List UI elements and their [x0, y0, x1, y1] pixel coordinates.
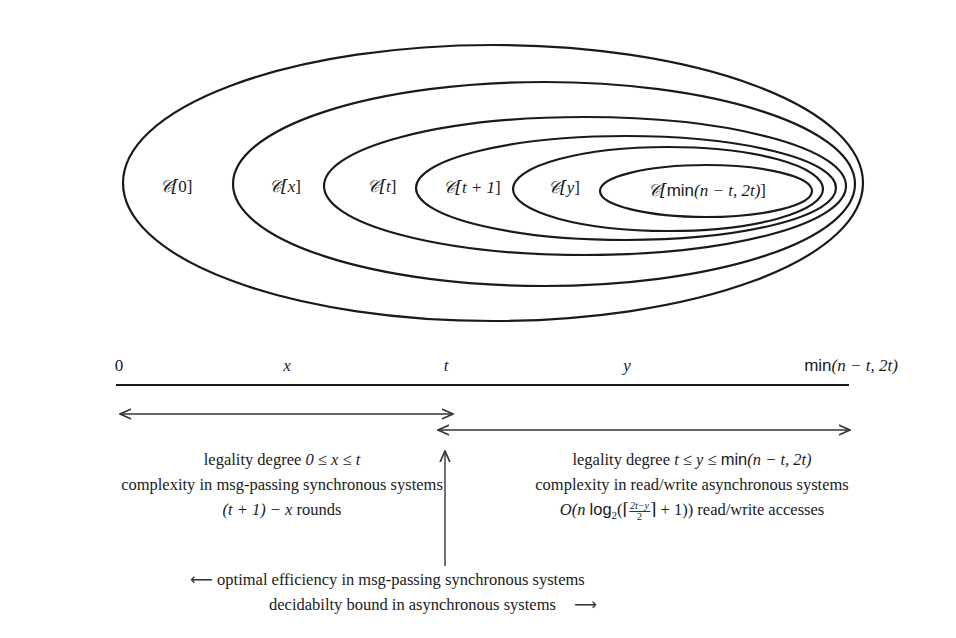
left-rounds-line: (t + 1) − x rounds: [121, 497, 443, 522]
set-label-cx: 𝒞[x]: [269, 176, 301, 197]
min-args: (n − t, 2t): [832, 356, 898, 375]
formula-part: ⌉ + 1)): [650, 500, 693, 519]
set-label-ct: 𝒞[t]: [367, 176, 396, 197]
set-label-cy: 𝒞[y]: [548, 177, 580, 198]
accesses-text: read/write accesses: [693, 500, 824, 519]
set-symbol: 𝒞[: [548, 177, 567, 197]
set-arg: 0: [178, 177, 187, 196]
footer-line-1: ⟵ optimal efficiency in msg-passing sync…: [190, 570, 585, 590]
axis-label-x: x: [283, 356, 291, 376]
optimal-efficiency-text: optimal efficiency in msg-passing synchr…: [217, 570, 585, 589]
set-label-cmin: 𝒞[min(n − t, 2t)]: [648, 180, 766, 201]
set-bracket: ]: [495, 178, 501, 197]
log-fn: log: [590, 500, 612, 518]
set-label-ct1: 𝒞[t + 1]: [443, 177, 501, 198]
set-bracket: ]: [574, 178, 580, 197]
formula-part: (n: [572, 500, 590, 519]
set-bracket: ]: [295, 177, 301, 196]
axis-label-0: 0: [115, 356, 124, 376]
axis-label-min: min(n − t, 2t): [804, 356, 898, 376]
legality-text: legality degree: [572, 450, 674, 469]
legality-range-b: (n − t, 2t): [747, 450, 811, 469]
axis-label-y: y: [623, 356, 631, 376]
set-symbol: 𝒞[: [367, 176, 386, 196]
rounds-formula: (t + 1) − x: [223, 500, 293, 519]
set-label-c0: 𝒞[0]: [160, 176, 193, 197]
legality-text: legality degree: [204, 450, 306, 469]
set-symbol: 𝒞[: [443, 177, 462, 197]
right-arrow-icon: ⟶: [574, 595, 597, 614]
decidability-bound-text: decidabilty bound in asynchronous system…: [269, 595, 556, 614]
set-arg: (n − t, 2t): [694, 181, 760, 200]
legality-range: 0 ≤ x ≤ t: [305, 450, 360, 469]
footer-line-2: decidabilty bound in asynchronous system…: [269, 595, 597, 615]
set-symbol: 𝒞[: [160, 176, 179, 196]
set-fn: min: [667, 181, 694, 200]
set-arg: t + 1: [462, 178, 495, 197]
axis-label-t: t: [444, 356, 449, 376]
rounds-text: rounds: [292, 500, 341, 519]
set-symbol: 𝒞[: [269, 176, 288, 196]
right-complexity-line: complexity in read/write asynchronous sy…: [535, 472, 848, 497]
min-fn: min: [804, 356, 831, 375]
set-symbol: 𝒞[: [648, 180, 667, 200]
legality-range-a: t ≤ y ≤: [674, 450, 721, 469]
left-region-description: legality degree 0 ≤ x ≤ t complexity in …: [121, 447, 443, 522]
left-complexity-line: complexity in msg-passing synchronous sy…: [121, 472, 443, 497]
right-legality-line: legality degree t ≤ y ≤ min(n − t, 2t): [535, 447, 848, 472]
fraction: 2t−y2: [629, 501, 650, 522]
set-bracket: ]: [760, 181, 766, 200]
set-bracket: ]: [391, 177, 397, 196]
right-accesses-line: O(n log2(⌈2t−y2⌉ + 1)) read/write access…: [535, 497, 848, 528]
big-o: O: [560, 500, 572, 519]
right-region-description: legality degree t ≤ y ≤ min(n − t, 2t) c…: [535, 447, 848, 528]
left-arrow-icon: ⟵: [190, 570, 213, 589]
left-legality-line: legality degree 0 ≤ x ≤ t: [121, 447, 443, 472]
fraction-denominator: 2: [629, 512, 650, 522]
set-bracket: ]: [187, 177, 193, 196]
min-fn: min: [721, 450, 748, 468]
formula-part: (⌈: [617, 500, 629, 519]
diagram-canvas: [0, 0, 956, 638]
